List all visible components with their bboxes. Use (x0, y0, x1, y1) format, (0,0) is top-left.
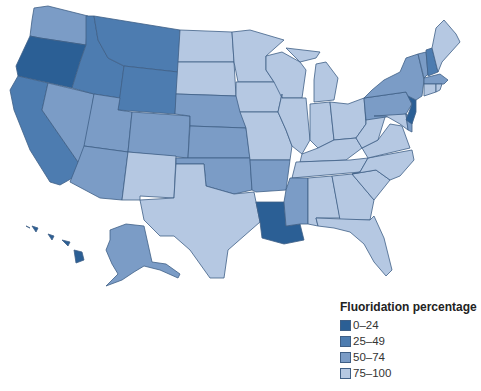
state-mississippi (284, 178, 308, 226)
state-colorado (128, 112, 190, 158)
state-new-mexico (122, 152, 176, 200)
state-new-york (364, 54, 424, 100)
legend-item-25-49: 25–49 (340, 333, 477, 349)
state-north-dakota (178, 30, 234, 62)
legend-item-75-100: 75–100 (340, 365, 477, 381)
legend-item-0-24: 0–24 (340, 317, 477, 333)
state-wyoming (118, 66, 178, 114)
legend-item-50-74: 50–74 (340, 349, 477, 365)
legend-label: 0–24 (353, 319, 379, 331)
state-kansas (188, 126, 250, 158)
legend-label: 25–49 (353, 335, 385, 347)
state-arkansas (250, 160, 290, 192)
legend-swatch (340, 368, 351, 379)
state-florida (316, 216, 392, 276)
legend-title: Fluoridation percentage (340, 300, 477, 314)
legend-swatch (340, 352, 351, 363)
legend-label: 75–100 (353, 367, 391, 379)
map-legend: Fluoridation percentage 0–24 25–49 50–74… (340, 300, 477, 381)
legend-swatch (340, 320, 351, 331)
state-rhode-island (436, 84, 442, 92)
state-maine (432, 20, 460, 72)
legend-swatch (340, 336, 351, 347)
state-hawaii (26, 226, 84, 263)
state-connecticut (424, 84, 436, 96)
legend-label: 50–74 (353, 351, 385, 363)
state-iowa (236, 82, 282, 112)
state-south-dakota (176, 62, 236, 96)
